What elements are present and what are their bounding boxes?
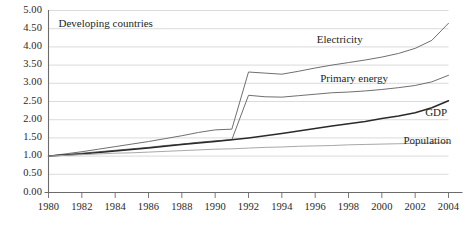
y-tick-label: 3.00 xyxy=(6,76,42,87)
series-line-electricity xyxy=(49,23,449,156)
x-tick-marks-group xyxy=(49,193,449,199)
y-tick-label: 3.50 xyxy=(6,58,42,69)
y-tick-label: 0.50 xyxy=(6,167,42,178)
series-label-gdp: GDP xyxy=(425,106,447,118)
y-tick-label: 5.00 xyxy=(6,4,42,15)
series-label-primary-energy: Primary energy xyxy=(320,72,388,84)
panel-title: Developing countries xyxy=(59,17,153,29)
chart-canvas xyxy=(0,0,472,228)
y-tick-label: 4.50 xyxy=(6,22,42,33)
y-tick-label: 0.00 xyxy=(6,186,42,197)
series-paths-group xyxy=(49,23,449,156)
series-label-population: Population xyxy=(404,134,452,146)
y-tick-label: 1.00 xyxy=(6,149,42,160)
x-tick-label: 2004 xyxy=(429,201,469,212)
y-tick-label: 2.50 xyxy=(6,95,42,106)
gridlines-group xyxy=(49,11,449,175)
y-tick-label: 2.00 xyxy=(6,113,42,124)
y-tick-label: 1.50 xyxy=(6,131,42,142)
chart-figure: 0.000.501.001.502.002.503.003.504.004.50… xyxy=(0,0,472,228)
y-tick-label: 4.00 xyxy=(6,40,42,51)
series-label-electricity: Electricity xyxy=(317,33,363,45)
series-line-population xyxy=(49,143,449,156)
